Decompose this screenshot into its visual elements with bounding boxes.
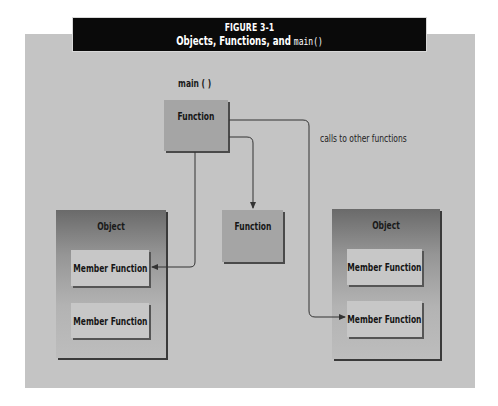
- standalone-function-box: Function: [222, 210, 283, 262]
- member-function-label: Member Function: [347, 261, 421, 273]
- object-right: Object Member Function Member Function: [332, 209, 440, 359]
- member-function-box: Member Function: [347, 301, 422, 337]
- figure-caption: FIGURE 3-1 Objects, Functions, and main(…: [72, 17, 427, 52]
- figure-number: FIGURE 3-1: [105, 20, 394, 34]
- member-function-box: Member Function: [347, 249, 422, 285]
- calls-note: calls to other functions: [320, 132, 407, 144]
- member-function-box: Member Function: [71, 303, 149, 338]
- main-code: main(): [294, 36, 323, 47]
- member-function-label: Member Function: [73, 262, 147, 274]
- object-title: Object: [67, 220, 155, 232]
- main-function-label: Function: [178, 110, 215, 151]
- main-function-box: Function: [164, 100, 228, 151]
- standalone-function-label: Function: [234, 220, 271, 262]
- object-title: Object: [343, 219, 429, 231]
- member-function-label: Member Function: [347, 313, 421, 325]
- main-label: main ( ): [178, 77, 211, 89]
- figure-title: Objects, Functions, and main(): [108, 34, 390, 49]
- object-left: Object Member Function Member Function: [56, 210, 166, 358]
- member-function-box: Member Function: [71, 250, 149, 286]
- member-function-label: Member Function: [73, 315, 147, 327]
